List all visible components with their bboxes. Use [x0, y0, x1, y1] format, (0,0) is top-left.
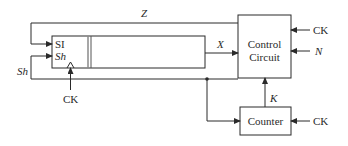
junction-dot: [205, 77, 209, 81]
shift-register-box: [52, 36, 205, 68]
si-label: SI: [55, 38, 65, 50]
ck-control-label: CK: [313, 24, 328, 36]
clock-triangle-icon: [67, 62, 74, 68]
ck-counter-label: CK: [313, 115, 328, 127]
control-label-line1: Control: [248, 38, 282, 50]
sh-signal-label: Sh: [17, 65, 29, 77]
block-diagram: SI Sh CK Z X Sh K Control Circuit CK N C…: [0, 0, 348, 146]
sh-counter-line: [207, 79, 240, 121]
x-label: X: [216, 38, 225, 50]
z-label: Z: [141, 7, 148, 19]
ck-register-label: CK: [63, 93, 78, 105]
sh-input-label: Sh: [55, 50, 67, 62]
control-label-line2: Circuit: [249, 51, 280, 63]
n-label: N: [314, 45, 323, 57]
k-label: K: [269, 92, 278, 104]
counter-label: Counter: [248, 115, 284, 127]
